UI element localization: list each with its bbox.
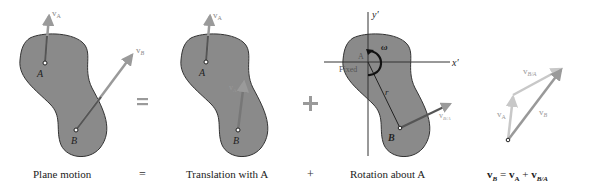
caption-plane-motion: Plane motion bbox=[33, 168, 91, 180]
caption-plus: + bbox=[307, 167, 314, 182]
vector-vBA bbox=[513, 69, 561, 95]
vA-label: vA bbox=[213, 10, 223, 21]
panel-translation: A B vA vA bbox=[181, 10, 268, 157]
rigid-body-shape bbox=[181, 34, 268, 157]
vector-origin-marker bbox=[506, 138, 510, 142]
fixed-label: Fixed bbox=[339, 65, 357, 74]
point-A-label: A bbox=[36, 68, 44, 79]
point-B-label: B bbox=[233, 135, 239, 146]
point-A-label: A bbox=[198, 67, 206, 78]
vB-label: vB bbox=[539, 107, 548, 118]
y-prime-label: y′ bbox=[371, 9, 379, 20]
panel-vector-sum: vA vB vB/A bbox=[497, 66, 561, 142]
point-B-marker bbox=[74, 128, 78, 132]
vA-label: vA bbox=[52, 8, 62, 19]
caption-rotation: Rotation about A bbox=[350, 168, 425, 180]
point-A-marker bbox=[43, 61, 47, 65]
caption-vector-equation: vB = vA + vB/A bbox=[487, 168, 548, 183]
omega-label: ω bbox=[381, 42, 388, 52]
point-B-label: B bbox=[387, 132, 395, 143]
vBA-label: vB/A bbox=[523, 66, 537, 77]
point-A-marker bbox=[204, 60, 208, 64]
equals-operator bbox=[137, 98, 148, 105]
x-prime-label: x′ bbox=[451, 57, 459, 68]
panel-rotation: y′ x′ r ω A Fixed B vB/A bbox=[324, 9, 459, 157]
vB-label: vB bbox=[136, 45, 145, 56]
vA-label: vA bbox=[497, 109, 507, 120]
vBA-label: vB/A bbox=[439, 111, 451, 121]
point-A-label: A bbox=[358, 52, 364, 61]
vector-vB bbox=[508, 70, 561, 140]
point-B-marker bbox=[398, 126, 402, 130]
point-B-label: B bbox=[71, 135, 77, 146]
radius-label: r bbox=[385, 87, 389, 97]
panel-plane-motion: A B vA vB bbox=[20, 8, 145, 157]
plus-operator bbox=[303, 96, 318, 111]
rigid-body-shape bbox=[20, 34, 107, 157]
diagram-canvas: A B vA vB A B vA vA y′ x′ r ω A bbox=[0, 0, 589, 193]
point-B-marker bbox=[236, 128, 240, 132]
caption-equals: = bbox=[139, 167, 146, 182]
caption-translation: Translation with A bbox=[186, 168, 268, 180]
